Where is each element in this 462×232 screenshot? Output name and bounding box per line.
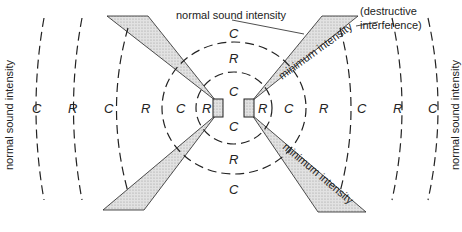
region-letter: C [176, 101, 186, 116]
region-letter: R [229, 51, 238, 66]
region-letter: R [141, 101, 150, 116]
left-speaker [213, 99, 223, 117]
region-letter: C [229, 182, 239, 197]
min-wedge-lower-left [103, 115, 216, 210]
wavefront-left-3 [117, 28, 129, 192]
destructive-annotation-2: interference) [360, 19, 422, 31]
leader-top [232, 20, 304, 34]
region-letter: C [229, 26, 239, 41]
region-letter: C [284, 101, 294, 116]
wavefront-right-3 [340, 28, 351, 192]
min-wedge-upper-left [107, 16, 216, 101]
right-annotation: normal sound intensity [449, 59, 461, 170]
region-letter: C [229, 84, 239, 99]
region-letter: C [357, 101, 367, 116]
region-letter: C [428, 101, 438, 116]
top-annotation: normal sound intensity [176, 9, 287, 21]
region-letter: C [229, 119, 239, 134]
region-letter: R [393, 101, 402, 116]
region-letter: C [104, 101, 114, 116]
left-row-letters: C R C R C R [32, 101, 211, 116]
region-letter: R [229, 152, 238, 167]
center-column-letters: C R C C R C [229, 26, 239, 197]
region-letter: R [258, 101, 267, 116]
region-letter: R [202, 101, 211, 116]
region-letter: R [319, 101, 328, 116]
region-letter: C [32, 101, 42, 116]
region-letter: R [68, 101, 77, 116]
left-annotation: normal sound intensity [3, 59, 15, 170]
right-speaker [244, 99, 254, 117]
destructive-annotation-1: (destructive [360, 5, 417, 17]
wavefronts [36, 18, 438, 200]
interference-diagram: normal sound intensity (destructive inte… [0, 0, 462, 232]
right-row-letters: R C R C R C [258, 101, 438, 116]
